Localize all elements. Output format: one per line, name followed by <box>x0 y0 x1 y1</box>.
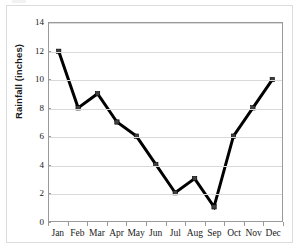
y-axis-tick-mark <box>48 22 51 23</box>
chart-figure: Rainfall (inches) 02468101214 JanFebMarA… <box>0 0 300 248</box>
gridline <box>49 194 282 195</box>
y-axis-tick-label: 4 <box>22 161 44 170</box>
x-axis-tick-mark <box>263 222 264 226</box>
gridline <box>49 109 282 110</box>
x-axis-tick-mark <box>126 222 127 226</box>
x-axis-tick-mark <box>244 222 245 226</box>
gridline <box>49 137 282 138</box>
y-axis-tick-label: 8 <box>22 104 44 113</box>
gridline <box>49 52 282 53</box>
x-axis-tick-mark <box>107 222 108 226</box>
x-axis-tick-mark <box>224 222 225 226</box>
y-axis-tick-label: 0 <box>22 218 44 227</box>
x-axis-tick-mark <box>68 222 69 226</box>
y-axis-tick-mark <box>48 222 51 223</box>
y-axis-tick-mark <box>48 136 51 137</box>
data-point-marker <box>95 92 99 96</box>
y-axis-tick-mark <box>48 193 51 194</box>
y-axis-tick-labels: 02468101214 <box>20 22 44 222</box>
x-axis-tick-mark <box>166 222 167 226</box>
y-axis-tick-label: 10 <box>22 75 44 84</box>
plot-area <box>48 22 283 222</box>
y-axis-tick-mark <box>48 165 51 166</box>
data-point-marker <box>212 205 216 209</box>
x-axis-tick-mark <box>283 222 284 226</box>
x-axis-tick-labels: JanFebMarAprMayJunJulAugSepOctNovDec <box>48 228 283 242</box>
y-axis-tick-label: 2 <box>22 189 44 198</box>
y-axis-tick-label: 14 <box>22 18 44 27</box>
y-axis-tick-mark <box>48 79 51 80</box>
y-axis-tick-mark <box>48 51 51 52</box>
data-point-marker <box>192 176 196 180</box>
x-axis-tick-mark <box>185 222 186 226</box>
y-axis-tick-mark <box>48 108 51 109</box>
y-axis-tick-label: 12 <box>22 47 44 56</box>
gridline <box>49 166 282 167</box>
gridline <box>49 23 282 24</box>
x-axis-tick-mark <box>146 222 147 226</box>
data-point-marker <box>115 120 119 124</box>
x-axis-tick-label: Dec <box>255 228 291 239</box>
x-axis-tick-mark <box>205 222 206 226</box>
gridline <box>49 80 282 81</box>
x-axis-tick-mark <box>87 222 88 226</box>
series-line <box>59 51 273 207</box>
y-axis-tick-label: 6 <box>22 132 44 141</box>
page-edge-artifact <box>12 0 26 3</box>
